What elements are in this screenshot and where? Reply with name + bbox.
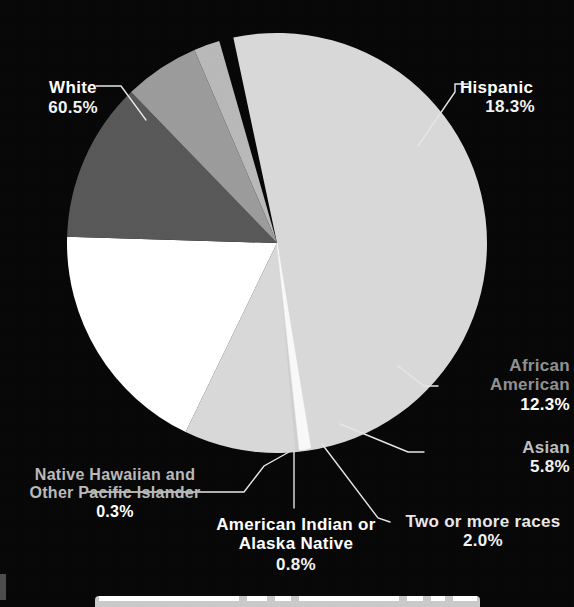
label-african-american: African American 12.3% <box>444 356 570 414</box>
page-edge-artifact <box>0 574 6 600</box>
label-american-indian-value: 0.8% <box>210 555 382 574</box>
pie-chart-figure: White 60.5% Hispanic 18.3% African Ameri… <box>0 0 574 607</box>
leader-line-two-or-more-races <box>322 444 390 522</box>
bottom-page-edge-strip <box>95 596 480 607</box>
label-white: White 60.5% <box>18 78 128 117</box>
label-american-indian-name-line2: Alaska Native <box>210 534 382 553</box>
label-american-indian-alaska-native: American Indian or Alaska Native 0.8% <box>210 515 382 574</box>
strip-segment <box>247 596 267 601</box>
label-native-hawaiian-name-line1: Native Hawaiian and <box>20 466 210 484</box>
label-hispanic: Hispanic 18.3% <box>460 78 560 116</box>
label-native-hawaiian-value: 0.3% <box>20 503 210 521</box>
label-two-or-more-races: Two or more races 2.0% <box>394 512 572 550</box>
strip-segment <box>299 596 399 601</box>
strip-segment <box>453 596 477 601</box>
label-hispanic-name: Hispanic <box>460 78 560 97</box>
label-african-american-name-line1: African <box>444 356 570 375</box>
label-hispanic-value: 18.3% <box>460 97 560 116</box>
label-asian: Asian 5.8% <box>430 438 570 476</box>
label-two-or-more-races-name: Two or more races <box>394 512 572 531</box>
label-asian-value: 5.8% <box>430 457 570 476</box>
label-white-name: White <box>18 78 128 97</box>
label-two-or-more-races-value: 2.0% <box>394 531 572 550</box>
strip-segment <box>99 596 239 601</box>
strip-segment <box>431 596 445 601</box>
label-native-hawaiian-pacific-islander: Native Hawaiian and Other Pacific Island… <box>20 466 210 521</box>
label-african-american-name-line2: American <box>444 375 570 394</box>
label-american-indian-name-line1: American Indian or <box>210 515 382 534</box>
strip-segment <box>275 596 291 601</box>
label-native-hawaiian-name-line2: Other Pacific Islander <box>20 484 210 502</box>
label-asian-name: Asian <box>430 438 570 457</box>
strip-segment <box>407 596 423 601</box>
label-african-american-value: 12.3% <box>444 395 570 414</box>
label-white-value: 60.5% <box>18 98 128 117</box>
